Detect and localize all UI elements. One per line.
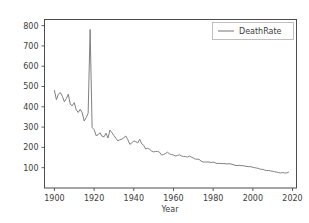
legend-label-deathrate: DeathRate: [239, 27, 282, 36]
chart-legend: DeathRate: [213, 23, 294, 40]
y-tick-label: 400: [23, 103, 38, 112]
y-tick-label: 200: [23, 143, 38, 152]
x-tick-label: 1920: [84, 194, 104, 203]
faint-title-text: [55, 1, 255, 9]
x-tick-label: 2000: [243, 194, 263, 203]
chart-figure: 100200300400500600700800 190019201940196…: [0, 0, 309, 223]
x-tick-label: 1980: [203, 194, 223, 203]
x-tick-label: 2020: [282, 194, 302, 203]
y-tick-label: 800: [23, 22, 38, 31]
y-tick-label: 100: [23, 164, 38, 173]
y-tick-label: 600: [23, 62, 38, 71]
x-tick-label: 1900: [44, 194, 64, 203]
x-axis-title: Year: [161, 205, 180, 214]
x-tick-label: 1940: [124, 194, 144, 203]
y-tick-label: 700: [23, 42, 38, 51]
y-tick-label: 500: [23, 82, 38, 91]
chart-svg: 100200300400500600700800 190019201940196…: [0, 0, 309, 223]
y-tick-label: 300: [23, 123, 38, 132]
x-tick-label: 1960: [163, 194, 183, 203]
